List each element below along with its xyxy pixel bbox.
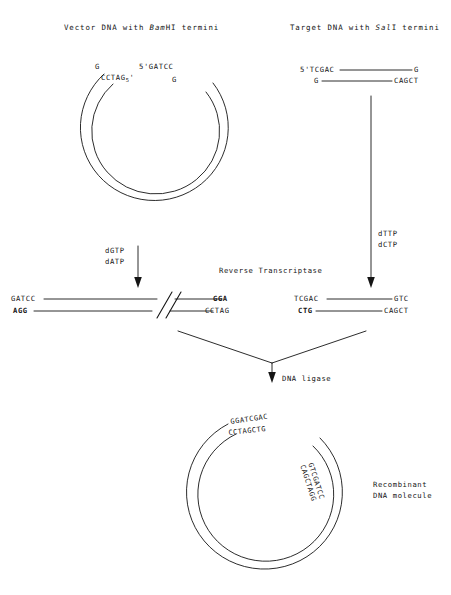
heading-vector-dna: Vector DNA with BamHI termini (64, 24, 219, 32)
vector-right-base: G (172, 76, 177, 84)
target-top-right-seq: G (414, 66, 419, 74)
vector-linear-top-left: GATCC (11, 295, 36, 303)
target-linear-bottom-right: CAGCT (384, 307, 409, 315)
recombinant-label-line1: Recombinant (373, 481, 427, 489)
figure-canvas: Vector DNA with BamHI termini Target DNA… (0, 0, 451, 595)
target-bottom-left-seq: G (314, 77, 319, 85)
heading-target-dna: Target DNA with SalI termini (290, 24, 440, 32)
recombinant-top-strand: GGATCGAC (230, 413, 268, 426)
vector-linear-bottom-right: CCTAG (205, 307, 230, 315)
target-linear-top-left: TCGAC (294, 295, 319, 303)
recombinant-label-line2: DNA molecule (373, 492, 432, 500)
right-arrow-label-dttp: dTTP (378, 230, 398, 238)
heading-target-enzyme-tail: I termini (392, 23, 440, 32)
heading-target-dna-text: Target DNA with (290, 23, 376, 32)
reverse-transcriptase-label: Reverse Transcriptase (219, 267, 322, 275)
vector-linear-bottom-left: AGG (13, 307, 28, 315)
heading-vector-dna-text: Vector DNA with (64, 23, 150, 32)
target-bottom-right-seq: CAGCT (394, 77, 419, 85)
heading-vector-enzyme-tail: HI termini (166, 23, 220, 32)
vector-left-overhang-prime: ' (130, 73, 135, 82)
dna-ligase-label: DNA ligase (282, 375, 331, 383)
recombinant-bottom-strand: CCTAGCTG (228, 425, 266, 437)
vector-left-overhang: CCTAG5' (101, 74, 134, 84)
target-linear-bottom-left: CTG (298, 307, 313, 315)
heading-target-enzyme: Sal (376, 23, 392, 32)
left-arrow-label-dgtp: dGTP (105, 247, 125, 255)
vector-linear-top-right: GGA (213, 295, 228, 303)
vector-left-base: G (95, 63, 100, 71)
target-top-left-seq: 5'TCGAC (300, 66, 335, 74)
target-linear-top-right: GTC (394, 295, 409, 303)
vector-left-overhang-seq: CCTAG (101, 73, 126, 82)
vector-right-overhang: 5'GATCC (139, 63, 174, 71)
left-arrow-label-datp: dATP (105, 258, 125, 266)
right-arrow-label-dctp: dCTP (378, 241, 398, 249)
heading-vector-enzyme: Bam (150, 23, 166, 32)
